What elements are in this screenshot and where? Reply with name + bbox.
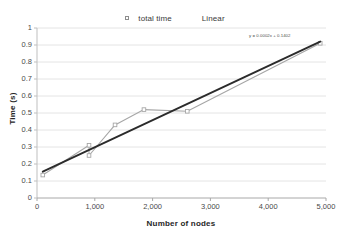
y-tick-label: 0.5 bbox=[6, 108, 32, 117]
gridlines bbox=[37, 28, 326, 181]
x-tick-label: 3,000 bbox=[190, 202, 230, 211]
y-tick-label: 1 bbox=[6, 23, 32, 32]
series-line-Linear bbox=[43, 42, 320, 172]
y-tick-label: 0.7 bbox=[6, 74, 32, 83]
x-tick-label: 2,000 bbox=[133, 202, 173, 211]
chart-container: total time Linear Time (s) Number of nod… bbox=[0, 0, 343, 234]
y-tick-label: 0.4 bbox=[6, 125, 32, 134]
data-point-marker bbox=[113, 123, 117, 127]
data-point-marker bbox=[41, 173, 45, 177]
y-tick-label: 0.2 bbox=[6, 159, 32, 168]
data-point-marker bbox=[142, 108, 146, 112]
y-tick-label: 0.3 bbox=[6, 142, 32, 151]
x-axis-title: Number of nodes bbox=[36, 219, 326, 228]
plot-area bbox=[0, 0, 343, 234]
data-point-marker bbox=[87, 144, 91, 148]
y-tick-label: 0.1 bbox=[6, 176, 32, 185]
x-tick-label: 1,000 bbox=[75, 202, 115, 211]
y-tick-label: 0.9 bbox=[6, 40, 32, 49]
series-line-total-time bbox=[43, 43, 320, 175]
y-tick-label: 0.8 bbox=[6, 57, 32, 66]
data-point-marker bbox=[87, 154, 91, 158]
x-tick-label: 0 bbox=[17, 202, 57, 211]
x-tick-label: 5,000 bbox=[306, 202, 343, 211]
data-point-marker bbox=[185, 110, 189, 114]
y-tick-label: 0.6 bbox=[6, 91, 32, 100]
trendline-equation: y = 0.0002x + 0.1402 bbox=[249, 33, 290, 38]
y-tick-label: 0 bbox=[6, 193, 32, 202]
x-tick-label: 4,000 bbox=[248, 202, 288, 211]
